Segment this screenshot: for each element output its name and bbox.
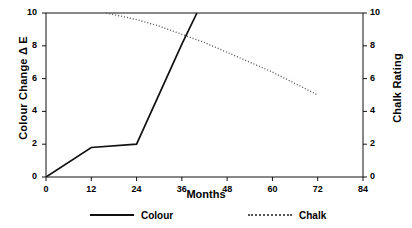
x-axis-tick-label: 60 — [261, 184, 283, 194]
plot-area — [0, 0, 412, 228]
x-axis-tick-label: 72 — [307, 184, 329, 194]
y-axis-left-tick-label: 0 — [17, 171, 37, 181]
y-axis-right-tick-label: 6 — [370, 73, 390, 83]
series-line-colour — [46, 13, 197, 177]
y-axis-left-tick-label: 10 — [17, 7, 37, 17]
legend-swatch-dotted-line-icon — [248, 211, 292, 219]
y-axis-left-tick-label: 8 — [17, 40, 37, 50]
y-axis-right-tick-label: 8 — [370, 40, 390, 50]
legend-item-chalk: Chalk — [248, 206, 326, 224]
x-axis-tick-label: 36 — [171, 184, 193, 194]
y-axis-left-tick-label: 2 — [17, 138, 37, 148]
x-axis-tick-label: 84 — [352, 184, 374, 194]
y-axis-right-tick-label: 2 — [370, 138, 390, 148]
legend-label-colour: Colour — [141, 210, 173, 221]
chart-legend: Colour Chalk — [0, 206, 412, 226]
x-axis-tick-label: 24 — [126, 184, 148, 194]
x-axis-tick-label: 48 — [216, 184, 238, 194]
legend-item-colour: Colour — [90, 206, 173, 224]
x-axis-tick-label: 12 — [80, 184, 102, 194]
y-axis-left-tick-label: 4 — [17, 105, 37, 115]
legend-label-chalk: Chalk — [299, 210, 326, 221]
series-line-chalk — [106, 13, 317, 95]
y-axis-left-tick-label: 6 — [17, 73, 37, 83]
chart-figure: Colour Change Δ E Chalk Rating Months 02… — [0, 0, 412, 228]
y-axis-right-tick-label: 0 — [370, 171, 390, 181]
x-axis-tick-label: 0 — [35, 184, 57, 194]
y-axis-right-tick-label: 10 — [370, 7, 390, 17]
legend-swatch-solid-line-icon — [90, 211, 134, 219]
y-axis-right-tick-label: 4 — [370, 105, 390, 115]
